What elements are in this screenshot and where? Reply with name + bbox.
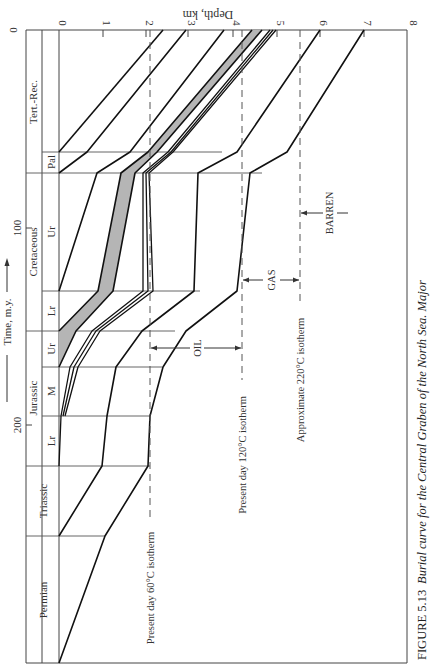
depth-tick-0: 0 bbox=[57, 20, 69, 26]
period-triassic: Triassic bbox=[37, 484, 49, 519]
period-cretaceous: Cretaceous bbox=[27, 228, 39, 277]
figure-caption: FIGURE 5.13 Burial curve for the Central… bbox=[415, 280, 429, 660]
subdivision-cret-lr: Lr bbox=[45, 305, 57, 316]
depth-tick-marks bbox=[103, 30, 364, 37]
caption-label: FIGURE 5.13 bbox=[415, 590, 429, 660]
subdivision-jur-ur: Ur bbox=[45, 343, 57, 355]
isotherm-60-label: Present day 60°C isotherm bbox=[145, 532, 156, 644]
depth-tick-labels: 0 1 2 3 4 5 6 7 8 bbox=[57, 20, 420, 26]
gas-arrow-right-icon bbox=[293, 278, 299, 283]
subdivision-pal: Pal bbox=[45, 155, 57, 169]
period-tert-rec: Tert.-Rec. bbox=[27, 80, 39, 124]
time-axis-label-group: Time, m.y. bbox=[1, 258, 13, 402]
gas-zone-annotation: GAS bbox=[243, 269, 299, 290]
period-jurassic: Jurassic bbox=[27, 380, 39, 415]
depth-tick-6: 6 bbox=[318, 20, 330, 26]
isotherm-220-label: Approximate 220°C isotherm bbox=[295, 318, 306, 442]
barren-label: BARREN bbox=[324, 191, 335, 234]
isotherm-labels: Present day 60°C isotherm Present day 12… bbox=[145, 318, 306, 644]
subdivision-jur-m: M bbox=[45, 386, 57, 396]
subdivision-jur-lr: Lr bbox=[45, 435, 57, 446]
oil-arrow-right-icon bbox=[235, 346, 241, 351]
time-axis-label: Time, m.y. bbox=[1, 298, 13, 345]
barren-zone-annotation: BARREN bbox=[301, 191, 348, 234]
depth-tick-1: 1 bbox=[101, 20, 113, 26]
burial-curve-figure: Depth, km 0 1 2 3 4 5 6 7 8 0 100 200 bbox=[0, 0, 437, 666]
period-permian: Permian bbox=[37, 581, 49, 618]
isotherm-lines bbox=[150, 30, 300, 520]
time-arrow-head-icon bbox=[5, 258, 10, 266]
gas-arrow-left-icon bbox=[243, 278, 249, 283]
depth-tick-4: 4 bbox=[231, 20, 243, 26]
oil-label: OIL bbox=[192, 339, 203, 357]
oil-zone-annotation: OIL bbox=[151, 339, 241, 357]
curve-top-paleocene bbox=[59, 30, 163, 152]
burial-curves bbox=[59, 30, 364, 663]
isotherm-120-label: Present day 120°C isotherm bbox=[237, 396, 248, 514]
time-tick-100: 100 bbox=[11, 219, 23, 236]
subdivision-cret-ur: Ur bbox=[45, 226, 57, 238]
depth-tick-7: 7 bbox=[362, 20, 374, 26]
time-tick-0: 0 bbox=[7, 27, 19, 33]
gas-label: GAS bbox=[266, 269, 277, 290]
barren-arrow-left-icon bbox=[301, 211, 307, 216]
depth-tick-5: 5 bbox=[275, 20, 287, 26]
time-tick-200: 200 bbox=[11, 416, 23, 433]
depth-tick-3: 3 bbox=[186, 20, 198, 26]
depth-tick-8: 8 bbox=[408, 20, 420, 26]
caption-text: Burial curve for the Central Graben of t… bbox=[415, 280, 429, 584]
depth-tick-2: 2 bbox=[144, 20, 156, 26]
oil-arrow-left-icon bbox=[151, 346, 157, 351]
curve-base-triassic bbox=[59, 30, 364, 663]
